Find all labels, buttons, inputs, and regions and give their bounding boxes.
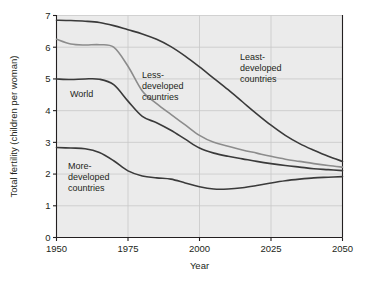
x-tick-label: 2025 — [260, 243, 281, 254]
y-tick-label: 7 — [45, 10, 50, 21]
y-tick-label: 4 — [45, 105, 50, 116]
y-tick-label: 3 — [45, 137, 50, 148]
annotation-line: Less- — [142, 70, 164, 80]
y-tick-label: 6 — [45, 42, 50, 53]
annotation-line: countries — [240, 74, 277, 84]
y-axis-title: Total fertility (children per woman) — [8, 55, 19, 197]
annotation-line: developed — [142, 81, 184, 91]
fertility-chart-figure: 0123456719501975200020252050 WorldLess-d… — [0, 0, 373, 281]
x-tick-label: 1950 — [46, 243, 67, 254]
x-tick-label: 2050 — [332, 243, 353, 254]
annotation-line: World — [70, 89, 93, 99]
annotation-line: developed — [68, 172, 110, 182]
annotation-world: World — [70, 89, 93, 99]
y-tick-label: 1 — [45, 200, 50, 211]
y-tick-label: 5 — [45, 73, 50, 84]
annotation-line: countries — [68, 183, 105, 193]
x-tick-label: 2000 — [189, 243, 210, 254]
annotation-line: developed — [240, 63, 282, 73]
x-tick-label: 1975 — [117, 243, 138, 254]
x-axis-title: Year — [190, 260, 209, 271]
chart-canvas: 0123456719501975200020252050 WorldLess-d… — [0, 0, 373, 281]
annotation-line: More- — [68, 161, 92, 171]
y-tick-label: 0 — [45, 232, 50, 243]
annotation-line: countries — [142, 92, 179, 102]
annotation-line: Least- — [240, 52, 265, 62]
y-tick-label: 2 — [45, 168, 50, 179]
